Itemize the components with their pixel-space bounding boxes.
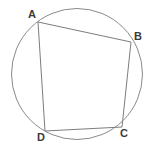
vertex-label-a: A [28,9,36,20]
quadrilateral-ABCD [38,22,131,131]
geometry-canvas [0,0,152,153]
vertex-label-c: C [120,128,128,139]
vertex-label-b: B [134,31,142,42]
geometry-figure: A B C D [0,0,152,153]
vertex-label-d: D [37,132,45,143]
